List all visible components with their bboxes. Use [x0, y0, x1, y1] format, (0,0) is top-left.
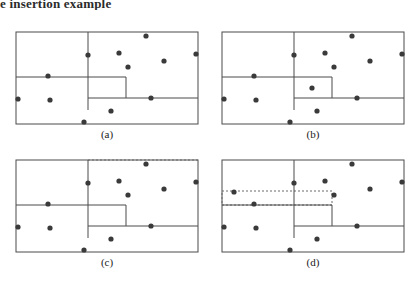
- panel-b-data-point: [253, 97, 258, 102]
- panel-a-data-point: [45, 73, 50, 78]
- panel-d-canvas: [220, 158, 406, 254]
- panel-a-data-point: [125, 64, 130, 69]
- panel-b-data-point: [309, 85, 314, 90]
- panel-b-data-point: [399, 51, 404, 56]
- panel-d-data-point: [251, 201, 256, 206]
- panel-c-data-point: [47, 225, 52, 230]
- panel-c-data-point: [143, 161, 148, 166]
- panel-c-data-point: [125, 192, 130, 197]
- panel-d-data-point: [221, 224, 226, 229]
- panel-b-data-point: [331, 64, 336, 69]
- panel-c-data-point: [148, 223, 153, 228]
- panel-a-data-point: [193, 51, 198, 56]
- panel-d-data-point: [253, 225, 258, 230]
- panel-b-data-point: [287, 119, 292, 124]
- panel-c-label: (c): [14, 256, 200, 268]
- panel-b-data-point: [251, 73, 256, 78]
- panel-b-outer-rectangle: [222, 32, 404, 124]
- panel-d-data-point: [354, 223, 359, 228]
- panel-d-data-point: [399, 179, 404, 184]
- panel-a-data-point: [143, 33, 148, 38]
- panel-d-dashed-enlarged-rectangle: [222, 191, 332, 205]
- panel-b: (b): [220, 30, 406, 142]
- panel-b-data-point: [314, 108, 319, 113]
- panel-d-data-point: [331, 192, 336, 197]
- panel-a-data-point: [108, 108, 113, 113]
- panel-a-data-point: [81, 119, 86, 124]
- panel-d-data-point: [322, 178, 327, 183]
- panel-d-outer-rectangle: [222, 160, 404, 252]
- panel-c-outer-rectangle: [16, 160, 198, 252]
- panel-a-label: (a): [14, 128, 200, 140]
- panel-d-label: (d): [220, 256, 406, 268]
- top-caption-text: e insertion example: [0, 0, 260, 10]
- panel-d-data-point: [287, 247, 292, 252]
- panel-a-data-point: [161, 58, 166, 63]
- panel-c-data-point: [15, 224, 20, 229]
- panel-d-data-point: [349, 161, 354, 166]
- panel-c-data-point: [193, 179, 198, 184]
- panel-a-data-point: [47, 97, 52, 102]
- panel-a-canvas: [14, 30, 200, 126]
- panel-b-data-point: [291, 52, 296, 57]
- panel-d-data-point: [367, 186, 372, 191]
- panel-a-outer-rectangle: [16, 32, 198, 124]
- panel-d-data-point: [291, 180, 296, 185]
- panel-b-canvas: [220, 30, 406, 126]
- panel-d-data-point: [314, 236, 319, 241]
- panel-c: (c): [14, 158, 200, 270]
- panel-b-label: (b): [220, 128, 406, 140]
- panel-d: (d): [220, 158, 406, 270]
- panel-b-data-point: [221, 96, 226, 101]
- panel-c-data-point: [108, 236, 113, 241]
- panel-a-data-point: [15, 96, 20, 101]
- panel-b-data-point: [322, 50, 327, 55]
- panel-a-data-point: [85, 52, 90, 57]
- panel-a: (a): [14, 30, 200, 142]
- panel-c-data-point: [45, 201, 50, 206]
- panel-a-data-point: [148, 95, 153, 100]
- panel-c-canvas: [14, 158, 200, 254]
- panel-d-data-point: [231, 189, 236, 194]
- panel-b-data-point: [349, 33, 354, 38]
- panel-c-data-point: [81, 247, 86, 252]
- panel-c-data-point: [116, 178, 121, 183]
- panel-c-data-point: [85, 180, 90, 185]
- panel-b-data-point: [354, 95, 359, 100]
- panel-c-data-point: [161, 186, 166, 191]
- panel-b-data-point: [367, 58, 372, 63]
- panel-a-data-point: [116, 50, 121, 55]
